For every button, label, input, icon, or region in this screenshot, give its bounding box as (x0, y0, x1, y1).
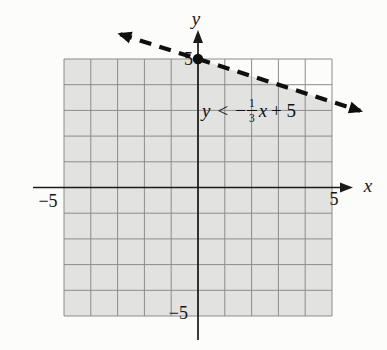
inequality-var-x: x (259, 100, 267, 122)
y-intercept-point (193, 54, 203, 64)
y-tick-label-5: 5 (184, 49, 193, 69)
x-tick-label-neg5: −5 (38, 191, 57, 211)
inequality-label: y<−13x+ 5 (202, 97, 296, 124)
x-tick-label-5: 5 (330, 189, 339, 209)
fraction-numerator: 1 (247, 97, 257, 110)
y-axis-label: y (190, 8, 201, 29)
inequality-graph-figure: y x 5 −5 −5 5 y<−13x+ 5 (0, 0, 387, 350)
inequality-tail: + 5 (271, 100, 296, 122)
x-axis-label: x (363, 175, 373, 196)
inequality-relation: < (217, 100, 228, 122)
graph-canvas: y x 5 −5 −5 5 (0, 0, 387, 350)
fraction-denominator: 3 (247, 110, 257, 124)
fraction-one-third: 13 (247, 97, 257, 124)
y-tick-label-neg5: −5 (169, 303, 188, 323)
inequality-var-y: y (202, 100, 210, 122)
inequality-minus-sign: − (235, 100, 246, 122)
